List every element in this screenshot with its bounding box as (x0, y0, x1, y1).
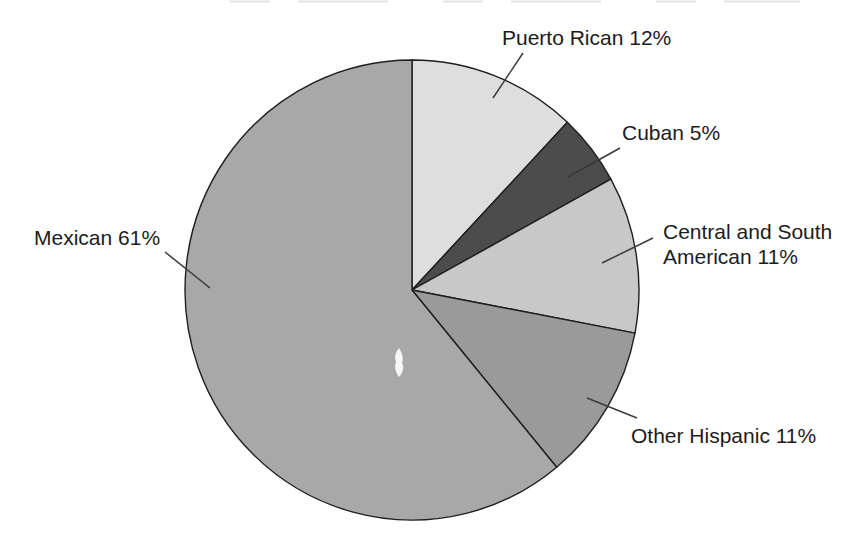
slice-label-mexican: Mexican 61% (34, 226, 160, 251)
pie-chart-figure: Puerto Rican 12% Cuban 5% Central and So… (0, 0, 851, 541)
slice-label-cuban: Cuban 5% (622, 121, 720, 146)
slice-label-puerto-rican: Puerto Rican 12% (502, 26, 671, 51)
slice-label-central-south-american: Central and South American 11% (663, 220, 843, 270)
slice-label-other-hispanic: Other Hispanic 11% (631, 424, 816, 449)
pie-chart (0, 0, 851, 541)
